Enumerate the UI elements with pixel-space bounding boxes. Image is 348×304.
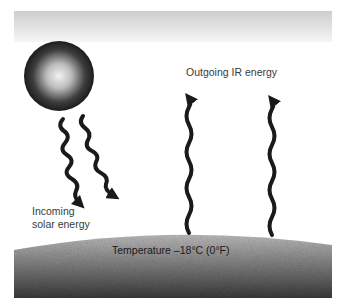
- incoming-label-line2: solar energy: [32, 218, 90, 231]
- incoming-solar-arrows: [60, 116, 114, 204]
- outgoing-ir-arrows: [187, 98, 275, 235]
- atmosphere-band: [14, 11, 332, 42]
- outgoing-arrow-1: [187, 98, 192, 233]
- outgoing-ir-label: Outgoing IR energy: [186, 66, 277, 79]
- temperature-label: Temperature –18°C (0°F): [112, 244, 230, 257]
- incoming-label-line1: Incoming: [32, 205, 90, 218]
- outgoing-arrow-2: [270, 100, 275, 235]
- greenhouse-diagram: [0, 0, 348, 304]
- incoming-solar-label: Incoming solar energy: [32, 205, 90, 231]
- sun-icon: [24, 41, 94, 111]
- incoming-arrow-1: [60, 119, 80, 204]
- incoming-arrow-2: [81, 116, 114, 196]
